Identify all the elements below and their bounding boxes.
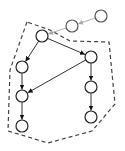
edge-arrow: [26, 41, 39, 61]
graph-node: [16, 90, 28, 102]
external-node: [95, 10, 107, 22]
edge-arrow: [48, 38, 86, 54]
graph-node: [85, 51, 97, 63]
external-node: [66, 20, 78, 32]
graph-node: [16, 61, 28, 73]
edges: [22, 18, 95, 120]
graph-node: [36, 30, 48, 42]
graph-diagram: [0, 0, 125, 151]
graph-node: [16, 120, 28, 132]
graph-node: [85, 111, 97, 123]
graph-node: [85, 81, 97, 93]
nodes: [16, 10, 107, 132]
edge-arrow: [28, 60, 86, 93]
edge-arrow: [78, 18, 95, 24]
